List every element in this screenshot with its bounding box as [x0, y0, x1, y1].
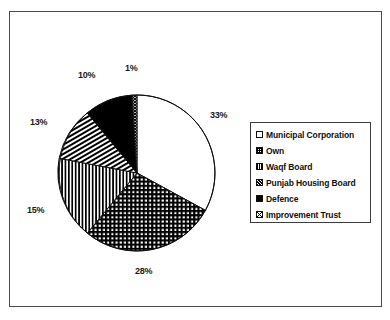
pie-label-improvement-trust: 1% [125, 63, 138, 73]
legend-item-waqf-board[interactable]: Waqf Board [256, 159, 366, 174]
legend-item-defence[interactable]: Defence [256, 191, 366, 206]
pie-label-municipal-corporation: 33% [210, 110, 227, 120]
checker-grid-swatch-icon [256, 147, 263, 154]
legend-label-improvement-trust: Improvement Trust [266, 210, 341, 220]
solid-white-swatch-icon [256, 131, 263, 138]
cross-hatch-swatch-icon [256, 211, 263, 218]
vertical-lines-swatch-icon [256, 163, 263, 170]
diagonal-lines-swatch-icon [256, 179, 263, 186]
pie-label-punjab-housing-board: 13% [30, 117, 47, 127]
pie-label-waqf-board: 15% [27, 205, 44, 215]
legend-label-waqf-board: Waqf Board [266, 162, 312, 172]
solid-black-swatch-icon [256, 195, 263, 202]
legend-label-municipal-corporation: Municipal Corporation [266, 130, 354, 140]
legend-item-improvement-trust[interactable]: Improvement Trust [256, 207, 366, 222]
chart-legend: Municipal Corporation Own Waqf Board Pun… [250, 122, 371, 223]
legend-item-municipal-corporation[interactable]: Municipal Corporation [256, 127, 366, 142]
legend-item-own[interactable]: Own [256, 143, 366, 158]
legend-label-punjab-housing-board: Punjab Housing Board [266, 178, 356, 188]
pie-label-defence: 10% [78, 70, 95, 80]
pie-label-own: 28% [135, 266, 152, 276]
legend-item-punjab-housing-board[interactable]: Punjab Housing Board [256, 175, 366, 190]
pie-chart-figure: 33% 28% 15% 13% 10% 1% Municipal Corpora… [0, 0, 390, 320]
legend-label-defence: Defence [266, 194, 298, 204]
legend-label-own: Own [266, 146, 284, 156]
